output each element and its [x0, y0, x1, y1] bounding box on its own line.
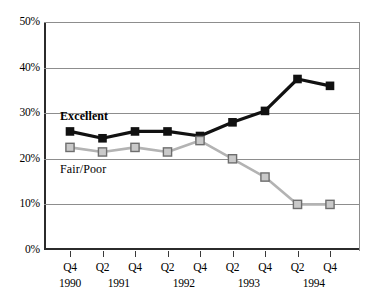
x-axis-year-label: 1993	[225, 278, 273, 290]
x-axis-tick	[168, 251, 169, 257]
y-axis-tick-label: 30%	[0, 107, 40, 119]
series-label-fair-poor: Fair/Poor	[60, 162, 106, 177]
x-axis-tick	[135, 251, 136, 257]
gridline	[44, 204, 360, 205]
plot-frame-top	[44, 22, 360, 23]
x-axis-tick	[70, 251, 71, 257]
x-axis-tick	[233, 251, 234, 257]
x-axis-tick	[330, 251, 331, 257]
x-axis-quarter-label: Q4	[310, 262, 350, 274]
x-axis-tick	[103, 251, 104, 257]
x-axis-year-label: 1991	[95, 278, 143, 290]
y-axis-tick-label: 0%	[0, 244, 40, 256]
gridline	[44, 68, 360, 69]
gridline	[44, 159, 360, 160]
line-chart: 50%40%30%20%10%0% Q4Q2Q4Q2Q4Q2Q4Q2Q41990…	[0, 0, 371, 301]
y-axis-tick-label: 10%	[0, 198, 40, 210]
plot-frame-right	[359, 22, 360, 251]
series-label-excellent: Excellent	[60, 109, 108, 124]
y-axis-labels: 50%40%30%20%10%0%	[0, 0, 40, 301]
plot-area	[44, 22, 360, 250]
x-axis-tick	[265, 251, 266, 257]
x-axis-year-label: 1992	[160, 278, 208, 290]
y-axis-tick-label: 40%	[0, 62, 40, 74]
x-axis-year-label: 1994	[290, 278, 338, 290]
y-axis-tick-label: 20%	[0, 153, 40, 165]
y-axis-tick-label: 50%	[0, 16, 40, 28]
x-axis-year-label: 1990	[46, 278, 94, 290]
x-axis-tick	[298, 251, 299, 257]
x-axis-tick	[200, 251, 201, 257]
